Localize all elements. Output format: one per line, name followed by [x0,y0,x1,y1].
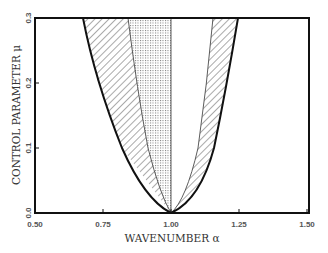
x-axis-label: WAVENUMBER α [124,232,219,244]
right-hatched-region [171,18,238,213]
x-tick-label: 1.50 [299,220,315,229]
y-tick-label: 0.1 [24,142,33,154]
stability-diagram: 0.50 0.75 1.00 1.25 1.50 0.0 0.1 0.2 0.3… [0,0,328,253]
y-tick-label: 0.0 [24,207,33,219]
x-tick-label: 0.75 [95,220,111,229]
y-tick-label: 0.3 [24,12,33,24]
y-axis-label: CONTROL PARAMETER μ [10,45,22,185]
y-tick-label: 0.2 [24,77,33,89]
x-tick-label: 0.50 [27,220,43,229]
x-tick-label: 1.00 [163,220,179,229]
x-tick-label: 1.25 [231,220,247,229]
plot-frame [35,18,309,213]
